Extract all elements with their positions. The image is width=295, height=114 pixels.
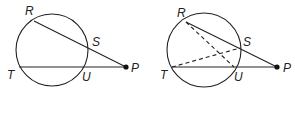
point-p-left: [123, 64, 128, 69]
label-t-left: T: [7, 68, 16, 82]
figure-right: R S T U P: [160, 6, 291, 87]
label-r-right: R: [177, 6, 186, 20]
label-r-left: R: [25, 4, 34, 18]
label-u-right: U: [234, 70, 243, 84]
secant-diagrams: R S T U P R S T U P: [0, 0, 295, 114]
chord-ts-dashed: [172, 48, 240, 67]
secant-rp-right: [186, 22, 277, 67]
label-p-right: P: [283, 61, 291, 75]
chord-ru-dashed: [186, 22, 234, 67]
figure-left: R S T U P: [7, 4, 139, 86]
point-p-right: [274, 64, 279, 69]
circle-left: [16, 14, 88, 86]
label-p-left: P: [131, 61, 139, 75]
label-t-right: T: [160, 68, 169, 82]
label-s-left: S: [92, 35, 100, 49]
label-s-right: S: [243, 35, 251, 49]
label-u-left: U: [82, 70, 91, 84]
circle-right: [167, 13, 241, 87]
